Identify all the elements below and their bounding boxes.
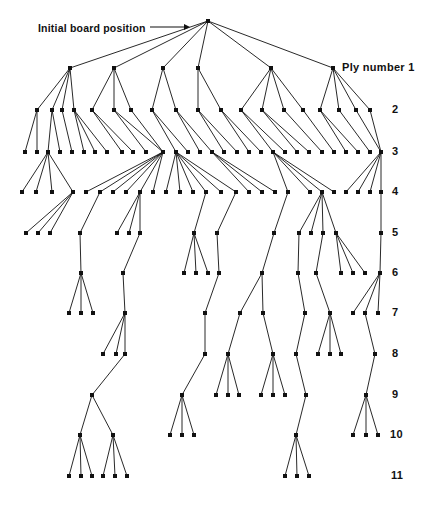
game-tree-graphic	[0, 0, 425, 506]
tree-node	[36, 231, 40, 235]
tree-node	[35, 108, 39, 112]
tree-edge	[365, 273, 380, 313]
tree-node	[271, 393, 275, 397]
tree-edge	[298, 273, 305, 313]
tree-node	[79, 474, 83, 478]
ply-label-7: 7	[392, 306, 398, 318]
tree-node	[259, 393, 263, 397]
tree-node	[210, 150, 214, 154]
tree-node	[283, 150, 287, 154]
tree-edge	[176, 110, 212, 152]
tree-node	[339, 352, 343, 356]
tree-node	[294, 352, 298, 356]
tree-node	[78, 433, 82, 437]
ply-label-9: 9	[392, 388, 398, 400]
figure-canvas: Initial board position Ply number 123456…	[0, 0, 425, 506]
tree-node	[379, 231, 383, 235]
tree-node	[308, 190, 312, 194]
tree-edge	[116, 313, 125, 354]
tree-node	[168, 433, 172, 437]
tree-edge	[70, 68, 74, 110]
tree-edge	[152, 110, 188, 152]
tree-edge	[103, 313, 125, 354]
tree-edge	[262, 110, 309, 152]
tree-node	[151, 190, 155, 194]
tree-node	[174, 150, 178, 154]
tree-edge	[52, 68, 70, 110]
tree-node	[90, 393, 94, 397]
tree-node	[351, 433, 355, 437]
tree-node	[376, 311, 380, 315]
tree-node	[226, 393, 230, 397]
tree-node	[379, 150, 383, 154]
tree-node	[144, 150, 148, 154]
tree-edge	[198, 21, 208, 68]
tree-node	[79, 311, 83, 315]
tree-edge	[50, 192, 73, 233]
tree-edge	[285, 435, 296, 476]
tree-edge	[221, 110, 261, 152]
tree-edge	[261, 354, 273, 395]
tree-edge	[208, 21, 333, 68]
tree-edge	[311, 192, 322, 233]
tree-edge	[322, 192, 323, 233]
tree-node	[217, 271, 221, 275]
tree-edge	[194, 192, 206, 233]
tree-edge	[353, 395, 366, 435]
tree-edge	[170, 395, 182, 435]
tree-edge	[303, 110, 334, 152]
tree-node	[101, 474, 105, 478]
tree-node	[203, 352, 207, 356]
tree-node	[161, 150, 165, 154]
tree-edge	[370, 110, 381, 152]
tree-edge	[80, 395, 92, 435]
tree-node	[115, 231, 119, 235]
tree-edge	[176, 152, 206, 192]
tree-edge	[273, 152, 310, 192]
tree-edge	[339, 110, 370, 152]
tree-edge	[92, 395, 113, 435]
tree-edge	[271, 68, 303, 110]
tree-edge	[217, 192, 236, 233]
tree-node	[111, 433, 115, 437]
tree-node	[269, 66, 273, 70]
tree-node	[123, 352, 127, 356]
ply-label-8: 8	[392, 347, 398, 359]
tree-node	[297, 231, 301, 235]
tree-edge	[274, 192, 288, 233]
tree-node	[164, 190, 168, 194]
tree-node	[90, 108, 94, 112]
tree-edge	[166, 152, 176, 192]
tree-node	[378, 271, 382, 275]
tree-node	[150, 108, 154, 112]
tree-node	[180, 433, 184, 437]
initial-board-position-label: Initial board position	[38, 22, 146, 34]
tree-edge	[284, 110, 322, 152]
tree-node	[82, 150, 86, 154]
tree-edge	[48, 110, 52, 152]
tree-node	[91, 311, 95, 315]
tree-edge	[356, 110, 381, 152]
tree-node	[239, 108, 243, 112]
tree-edge	[92, 110, 133, 152]
tree-node	[186, 150, 190, 154]
tree-edge	[52, 110, 60, 152]
tree-node	[295, 150, 299, 154]
arrow-head-icon	[184, 24, 190, 30]
tree-node	[131, 150, 135, 154]
tree-node	[363, 271, 367, 275]
tree-node	[296, 271, 300, 275]
tree-node	[283, 393, 287, 397]
tree-edge	[69, 273, 81, 313]
tree-node	[234, 190, 238, 194]
tree-edge	[92, 110, 122, 152]
tree-edge	[299, 192, 322, 233]
tree-edge	[358, 152, 381, 192]
tree-node	[60, 108, 64, 112]
tree-node	[215, 231, 219, 235]
tree-node	[344, 150, 348, 154]
ply-label-3: 3	[392, 145, 398, 157]
tree-edge	[129, 192, 140, 233]
tree-edge	[114, 68, 131, 110]
tree-edge	[198, 110, 237, 152]
